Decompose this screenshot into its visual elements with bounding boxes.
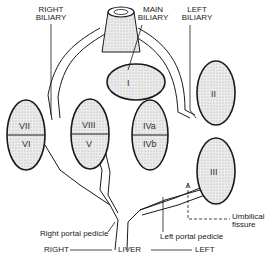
label-left-portal-pedicle: Left portal pedicle bbox=[160, 233, 223, 241]
segment-label-IVa: IVa bbox=[143, 121, 156, 131]
label-right-biliary: RIGHT BILIARY bbox=[30, 6, 72, 22]
segment-label-VIII: VIII bbox=[82, 120, 96, 130]
label-umbilical-fissure: Umbilical fissure bbox=[232, 213, 264, 229]
label-main-biliary: MAIN BILIARY bbox=[132, 6, 174, 22]
label-left-biliary-line2: BILIARY bbox=[176, 14, 218, 22]
segment-label-I: I bbox=[127, 78, 130, 88]
segment-label-IVb: IVb bbox=[143, 139, 157, 149]
label-umbilical-line2: fissure bbox=[232, 221, 264, 229]
label-right-biliary-line2: BILIARY bbox=[30, 14, 72, 22]
segment-VIII-V bbox=[71, 99, 109, 169]
segment-label-V: V bbox=[86, 139, 92, 149]
axis-label-liver: LIVER bbox=[118, 246, 141, 254]
segment-VII-VI bbox=[7, 100, 45, 170]
axis-label-right: RIGHT bbox=[44, 246, 69, 254]
label-left-biliary: LEFT BILIARY bbox=[176, 6, 218, 22]
segment-label-III: III bbox=[210, 167, 218, 177]
segment-label-VII: VII bbox=[19, 121, 30, 131]
label-right-portal-pedicle: Right portal pedicle bbox=[40, 230, 108, 238]
segment-IVa-IVb bbox=[132, 100, 168, 170]
label-main-biliary-line2: BILIARY bbox=[132, 14, 174, 22]
segment-label-VI: VI bbox=[22, 139, 31, 149]
segment-I bbox=[107, 64, 165, 100]
axis-label-left: LEFT bbox=[195, 246, 215, 254]
segment-label-II: II bbox=[211, 89, 216, 99]
